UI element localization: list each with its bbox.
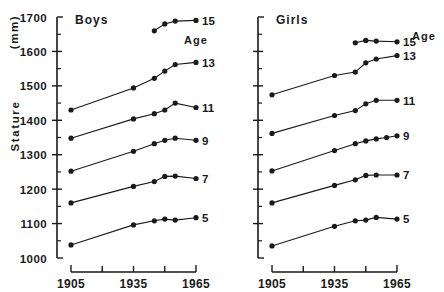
data-point-age-7-1965 <box>394 172 399 177</box>
data-point-age-5-1905 <box>68 242 73 247</box>
y-tick-label-1300: 1300 <box>20 149 47 161</box>
data-point-age-9-1935 <box>131 149 136 154</box>
data-point-age-13-1905 <box>68 107 73 112</box>
data-point-age-11-1905 <box>269 131 274 136</box>
data-point-age-13-1950 <box>363 60 368 65</box>
data-point-age-15-1965 <box>394 39 399 44</box>
data-point-age-13-1945 <box>152 76 157 81</box>
series-group-age-5-boys: 5 <box>68 212 209 247</box>
series-line-age-5 <box>71 218 196 245</box>
series-group-age-15-girls: 15 <box>353 36 417 48</box>
data-point-age-11-1950 <box>363 101 368 106</box>
y-tick-label-1000: 1000 <box>20 253 47 265</box>
series-group-age-9-girls: 9 <box>269 130 409 173</box>
series-group-age-9-boys: 9 <box>68 135 208 174</box>
data-point-age-13-1965 <box>394 53 399 58</box>
data-point-age-15-1950 <box>363 38 368 43</box>
x-tick-label-1935-girls: 1935 <box>321 277 349 291</box>
data-point-age-11-1945 <box>152 111 157 116</box>
data-point-age-5-1965 <box>394 217 399 222</box>
data-point-age-9-1935 <box>332 148 337 153</box>
series-group-age-5-girls: 5 <box>269 213 410 248</box>
data-point-age-15-1950 <box>162 21 167 26</box>
series-label-age-5-girls: 5 <box>403 213 410 225</box>
data-point-age-11-1955 <box>374 98 379 103</box>
data-point-age-5-1955 <box>374 215 379 220</box>
panel-girls: 190519351965GirlsAge151311975 <box>222 0 444 292</box>
data-point-age-15-1955 <box>374 39 379 44</box>
data-point-age-9-1950 <box>162 138 167 143</box>
data-point-age-5-1945 <box>152 218 157 223</box>
figure-root: (mm) Stature 100011001200130014001500160… <box>0 0 444 292</box>
y-tick-label-1400: 1400 <box>20 115 47 127</box>
data-point-age-9-1905 <box>269 168 274 173</box>
data-point-age-13-1965 <box>193 60 198 65</box>
data-point-age-7-1935 <box>332 183 337 188</box>
data-point-age-11-1955 <box>173 101 178 106</box>
y-tick-label-1600: 1600 <box>20 46 47 58</box>
series-group-age-13-boys: 13 <box>68 57 214 113</box>
series-label-age-7-girls: 7 <box>403 169 409 181</box>
data-point-age-9-1965 <box>394 133 399 138</box>
data-point-age-13-1950 <box>162 69 167 74</box>
data-point-age-5-1935 <box>332 224 337 229</box>
data-point-age-7-1935 <box>131 184 136 189</box>
data-point-age-9-1905 <box>68 169 73 174</box>
data-point-age-13-1935 <box>131 85 136 90</box>
data-point-age-5-1935 <box>131 222 136 227</box>
data-point-age-5-1950 <box>162 217 167 222</box>
chart-svg-boys: 1000110012001300140015001600170019051935… <box>0 0 222 292</box>
data-point-age-5-1955 <box>173 218 178 223</box>
data-point-age-11-1950 <box>162 107 167 112</box>
y-tick-label-1200: 1200 <box>20 184 47 196</box>
panel-title-girls: Girls <box>276 13 308 27</box>
y-tick-label-1500: 1500 <box>20 80 47 92</box>
series-group-age-13-girls: 13 <box>269 50 415 98</box>
data-point-age-11-1965 <box>394 98 399 103</box>
x-tick-label-1965-boys: 1965 <box>182 277 210 291</box>
data-point-age-9-1955 <box>374 136 379 141</box>
data-point-age-7-1950 <box>162 174 167 179</box>
series-label-age-7-boys: 7 <box>202 173 208 185</box>
series-line-age-5 <box>272 217 397 246</box>
data-point-age-9-1945 <box>353 141 358 146</box>
data-point-age-7-1905 <box>68 200 73 205</box>
series-label-age-15-girls: 15 <box>403 36 416 48</box>
series-label-age-11-girls: 11 <box>403 95 416 107</box>
data-point-age-9-1960 <box>384 135 389 140</box>
data-point-age-7-1955 <box>173 174 178 179</box>
data-point-age-7-1955 <box>374 172 379 177</box>
data-point-age-11-1935 <box>332 113 337 118</box>
series-label-age-13-boys: 13 <box>202 57 215 69</box>
data-point-age-13-1955 <box>374 56 379 61</box>
data-point-age-11-1965 <box>193 105 198 110</box>
data-point-age-13-1905 <box>269 92 274 97</box>
data-point-age-13-1935 <box>332 73 337 78</box>
data-point-age-15-1965 <box>193 18 198 23</box>
x-tick-label-1935-boys: 1935 <box>120 277 148 291</box>
data-point-age-7-1945 <box>353 177 358 182</box>
series-group-age-11-girls: 11 <box>269 95 415 136</box>
data-point-age-9-1950 <box>363 138 368 143</box>
y-tick-label-1700: 1700 <box>20 12 47 24</box>
data-point-age-11-1945 <box>353 108 358 113</box>
data-point-age-7-1950 <box>363 173 368 178</box>
data-point-age-7-1945 <box>152 179 157 184</box>
series-label-age-9-boys: 9 <box>202 135 208 147</box>
series-line-age-9 <box>71 138 196 171</box>
data-point-age-9-1955 <box>173 136 178 141</box>
data-point-age-11-1935 <box>131 116 136 121</box>
data-point-age-15-1945 <box>152 28 157 33</box>
x-tick-label-1965-girls: 1965 <box>383 277 411 291</box>
series-group-age-11-boys: 11 <box>68 101 214 141</box>
data-point-age-15-1955 <box>173 19 178 24</box>
series-group-age-7-boys: 7 <box>68 173 208 206</box>
series-label-age-11-boys: 11 <box>202 102 215 114</box>
x-tick-label-1905-boys: 1905 <box>57 277 85 291</box>
data-point-age-11-1905 <box>68 136 73 141</box>
series-label-age-13-girls: 13 <box>403 50 416 62</box>
data-point-age-5-1905 <box>269 243 274 248</box>
panel-title-boys: Boys <box>75 13 108 27</box>
chart-svg-girls: 190519351965GirlsAge151311975 <box>222 0 444 292</box>
data-point-age-9-1945 <box>152 141 157 146</box>
